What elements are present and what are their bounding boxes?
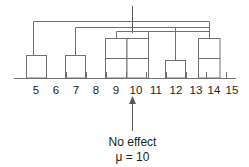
bracket-level-3 xyxy=(117,32,210,39)
axis-label-9: 14 xyxy=(208,84,221,96)
axis-label-10: 15 xyxy=(226,84,239,96)
axis-label-4: 9 xyxy=(113,84,119,96)
axis-label-3: 8 xyxy=(93,84,99,96)
bar-group xyxy=(27,39,221,79)
axis-label-1: 6 xyxy=(53,84,59,96)
axis-label-2: 7 xyxy=(73,84,79,96)
bar-14 xyxy=(199,39,221,79)
bar-10 xyxy=(127,39,149,79)
axis-label-7: 12 xyxy=(170,84,183,96)
axis-label-5: 10 xyxy=(130,84,143,96)
up-arrow-icon xyxy=(129,96,136,131)
caption-line-2: μ = 10 xyxy=(116,150,150,164)
axis-ticks xyxy=(27,72,227,79)
statistics-figure: 5 6 7 8 9 10 11 12 13 14 15 No effect μ … xyxy=(0,0,249,167)
caption: No effect μ = 10 xyxy=(109,135,157,164)
axis-label-6: 11 xyxy=(150,84,162,96)
bar-7 xyxy=(66,56,86,79)
bar-12 xyxy=(166,61,186,79)
axis-label-8: 13 xyxy=(190,84,203,96)
bar-9 xyxy=(106,39,128,79)
bar-5 xyxy=(27,56,47,79)
caption-line-1: No effect xyxy=(109,135,157,149)
axis-tick-labels: 5 6 7 8 9 10 11 12 13 14 15 xyxy=(33,84,239,96)
axis-label-0: 5 xyxy=(33,84,39,96)
